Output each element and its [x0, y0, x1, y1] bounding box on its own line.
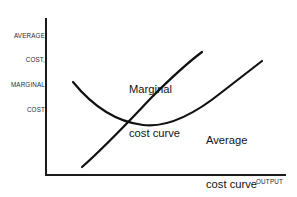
y-axis-label-line-4: COST — [2, 106, 45, 114]
marginal-cost-label-line-2: cost curve — [129, 126, 180, 141]
marginal-cost-label-line-1: Marginal — [129, 82, 180, 97]
y-axis-label: AVERAGE COST, MARGINAL COST — [2, 15, 45, 131]
y-axis-label-line-3: MARGINAL — [2, 81, 45, 89]
average-cost-curve-label: Average cost curve — [206, 103, 257, 197]
x-axis-label: OUTPUT — [256, 179, 283, 186]
cost-curves-figure: AVERAGE COST, MARGINAL COST OUTPUT Margi… — [0, 0, 297, 197]
average-cost-label-line-1: Average — [206, 133, 257, 148]
average-cost-label-line-2: cost curve — [206, 177, 257, 192]
y-axis-label-line-2: COST, — [2, 56, 45, 64]
y-axis-label-line-1: AVERAGE — [2, 32, 45, 40]
marginal-cost-curve-label: Marginal cost curve — [129, 52, 180, 171]
